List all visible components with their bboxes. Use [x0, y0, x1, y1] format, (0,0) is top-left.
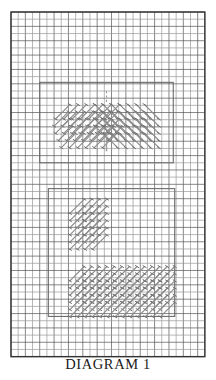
- stitch-chart-svg: [0, 0, 216, 380]
- diagram-caption: DIAGRAM 1: [0, 356, 216, 373]
- diagram-figure: DIAGRAM 1: [0, 0, 216, 380]
